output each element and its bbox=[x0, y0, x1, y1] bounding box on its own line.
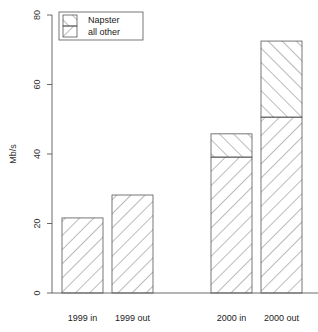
x-axis-labels: 1999 in1999 out2000 in2000 out bbox=[68, 313, 300, 323]
legend-label-napster: Napster bbox=[88, 15, 120, 25]
legend-swatch-napster bbox=[63, 15, 77, 26]
y-tick-label: 60 bbox=[32, 79, 42, 89]
segment-all-other bbox=[62, 218, 103, 293]
y-tick-label: 80 bbox=[32, 10, 42, 20]
y-tick-label: 20 bbox=[32, 218, 42, 228]
x-category-label: 1999 out bbox=[115, 313, 151, 323]
x-category-label: 2000 in bbox=[217, 313, 247, 323]
bar-2000-out bbox=[261, 41, 302, 293]
x-category-label: 2000 out bbox=[264, 313, 300, 323]
segment-all-other bbox=[112, 195, 153, 293]
segment-all-other bbox=[261, 117, 302, 293]
bar-1999-in bbox=[62, 218, 103, 293]
x-category-label: 1999 in bbox=[68, 313, 98, 323]
legend: Napsterall other bbox=[59, 12, 143, 40]
y-tick-label: 0 bbox=[32, 290, 42, 295]
stacked-bar-chart: 020406080Mb/s 1999 in1999 out2000 in2000… bbox=[0, 0, 318, 332]
segment-napster bbox=[261, 41, 302, 117]
y-tick-label: 40 bbox=[32, 149, 42, 159]
bars bbox=[62, 41, 302, 293]
segment-napster bbox=[211, 134, 252, 157]
bar-2000-in bbox=[211, 134, 252, 293]
legend-label-all-other: all other bbox=[88, 27, 120, 37]
bar-1999-out bbox=[112, 195, 153, 293]
legend-swatch-all-other bbox=[63, 26, 77, 37]
y-axis-title: Mb/s bbox=[8, 144, 18, 164]
segment-all-other bbox=[211, 157, 252, 293]
